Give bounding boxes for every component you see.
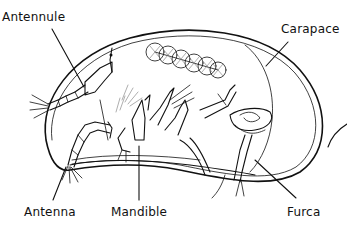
- label-carapace: Carapace: [281, 22, 340, 36]
- adjacent-drawing-fragment: [328, 124, 347, 147]
- label-furca: Furca: [287, 205, 320, 219]
- antenna-structure: [62, 122, 112, 183]
- furca-structure: [212, 135, 252, 198]
- label-mandible: Mandible: [111, 205, 167, 219]
- mandible-structure: [118, 95, 150, 162]
- crustacean-anatomy-diagram: Antennule Carapace Antenna Mandible Furc…: [0, 0, 347, 229]
- leader-lines: [52, 29, 296, 200]
- posterior-organs: [230, 108, 272, 133]
- leader-furca: [255, 160, 296, 198]
- leader-carapace: [266, 42, 288, 66]
- label-antennule: Antennule: [2, 10, 65, 24]
- label-antenna: Antenna: [24, 205, 76, 219]
- carapace-outline: [45, 30, 322, 181]
- leader-antennule: [52, 29, 84, 87]
- leader-antenna: [53, 167, 66, 200]
- thoracic-legs: [150, 85, 236, 175]
- egg-chain: [146, 43, 226, 78]
- head: [85, 48, 113, 140]
- antennule-structure: [30, 85, 88, 118]
